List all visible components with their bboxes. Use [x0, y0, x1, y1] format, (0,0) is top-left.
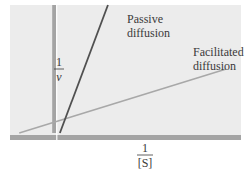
x-axis-bar — [10, 135, 241, 140]
passive-diffusion-label-line2: diffusion — [127, 26, 170, 40]
facilitated-diffusion-label-line1: Facilitated — [193, 45, 244, 59]
x-axis-label-numerator: 1 — [142, 141, 148, 155]
lineweaver-burk-chart: Passive diffusion Facilitated diffusion … — [0, 0, 248, 173]
x-axis-label-denominator: [S] — [138, 156, 153, 170]
y-axis-label-numerator: 1 — [56, 55, 62, 69]
facilitated-diffusion-label-line2: diffusion — [193, 59, 236, 73]
x-axis-origin-gap — [56, 134, 57, 141]
passive-diffusion-label-line1: Passive — [127, 12, 163, 26]
y-axis-label-denominator: v — [56, 70, 62, 84]
